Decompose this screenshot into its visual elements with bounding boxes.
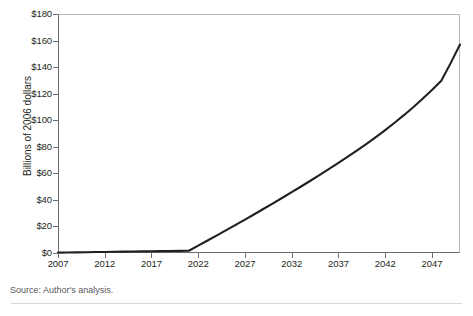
y-axis-tick-label: $20 — [6, 221, 52, 231]
y-axis-tick-mark — [53, 173, 58, 174]
y-axis-tick-label: $160 — [6, 36, 52, 46]
x-axis-tick-label: 2032 — [267, 258, 317, 269]
x-axis-tick-mark — [58, 253, 59, 258]
x-axis-tick-mark — [338, 253, 339, 258]
x-axis-tick-labels: 200720122017202220272032203720422047 — [0, 258, 473, 274]
x-axis-tick-mark — [245, 253, 246, 258]
x-axis-tick-mark — [198, 253, 199, 258]
x-axis-tick-mark — [432, 253, 433, 258]
y-axis-tick-mark — [53, 226, 58, 227]
y-axis-tick-label: $180 — [6, 9, 52, 19]
y-axis-tick-mark — [53, 41, 58, 42]
x-axis-tick-label: 2047 — [407, 258, 457, 269]
y-axis-tick-mark — [53, 14, 58, 15]
x-axis-tick-label: 2037 — [313, 258, 363, 269]
x-axis-tick-mark — [151, 253, 152, 258]
series-line-projected-cost — [58, 45, 460, 253]
x-axis-tick-label: 2027 — [220, 258, 270, 269]
y-axis-tick-label: $0 — [6, 248, 52, 258]
x-axis-tick-label: 2042 — [360, 258, 410, 269]
x-axis-tick-mark — [292, 253, 293, 258]
y-axis-tick-mark — [53, 94, 58, 95]
y-axis-tick-mark — [53, 200, 58, 201]
x-axis-tick-mark — [105, 253, 106, 258]
source-note: Source: Author's analysis. — [10, 284, 113, 296]
y-axis-tick-mark — [53, 67, 58, 68]
y-axis-tick-mark — [53, 120, 58, 121]
y-axis-tick-mark — [53, 147, 58, 148]
x-axis-tick-mark — [385, 253, 386, 258]
chart-figure: $0$20$40$60$80$100$120$140$160$180 20072… — [0, 0, 473, 316]
chart-plot-svg — [58, 14, 460, 253]
x-axis-tick-label: 2012 — [80, 258, 130, 269]
y-axis-title: Billions of 2006 dollars — [22, 51, 34, 201]
x-axis-tick-label: 2017 — [126, 258, 176, 269]
bottom-divider — [11, 303, 462, 304]
x-axis-tick-label: 2007 — [33, 258, 83, 269]
x-axis-tick-label: 2022 — [173, 258, 223, 269]
